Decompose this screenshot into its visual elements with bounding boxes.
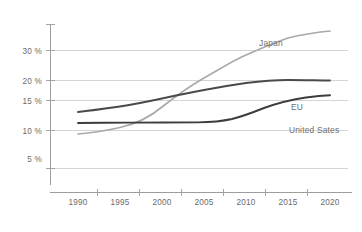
series-label-eu: EU xyxy=(291,102,303,112)
line-chart-figure: 30 % 20 % 15 % 10 % 5 % 1990 1995 2000 2… xyxy=(0,0,362,232)
y-axis: 30 % 20 % 15 % 10 % 5 % xyxy=(23,24,55,185)
series-labels-group: Japan EU United Sates xyxy=(259,38,339,135)
series-label-united-states: United Sates xyxy=(289,125,339,135)
y-tick-label-5: 5 % xyxy=(27,155,42,164)
x-tick-label-2000: 2000 xyxy=(152,198,171,207)
x-tick-label-2020: 2020 xyxy=(320,198,339,207)
x-tick-label-2005: 2005 xyxy=(194,198,213,207)
y-tick-label-30: 30 % xyxy=(23,47,42,56)
x-axis: 1990 1995 2000 2005 2010 2015 2020 xyxy=(50,189,352,207)
x-tick-label-1995: 1995 xyxy=(110,198,129,207)
series-group xyxy=(78,31,330,134)
x-tick-label-1990: 1990 xyxy=(68,198,87,207)
series-label-japan: Japan xyxy=(259,38,283,48)
y-tick-label-10: 10 % xyxy=(23,127,42,136)
chart-plot-area: 30 % 20 % 15 % 10 % 5 % 1990 1995 2000 2… xyxy=(0,0,362,232)
y-tick-label-20: 20 % xyxy=(23,77,42,86)
series-line-japan xyxy=(78,31,330,134)
x-tick-label-2010: 2010 xyxy=(236,198,255,207)
x-tick-label-2015: 2015 xyxy=(278,198,297,207)
y-tick-label-15: 15 % xyxy=(23,97,42,106)
